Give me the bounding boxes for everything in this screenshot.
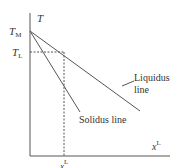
tl-label: TL	[12, 47, 22, 60]
liquidus-leader	[122, 81, 134, 86]
solidus-label: Solidus line	[79, 115, 127, 125]
liquidus-line	[30, 31, 140, 111]
liquidus-label: Liquidus line	[134, 72, 170, 96]
y-axis-label: T	[37, 13, 43, 24]
phase-diagram: T TM TL Liquidus line Solidus line xL xL	[0, 0, 181, 168]
x-axis-label: xL	[152, 140, 161, 152]
tm-label: TM	[9, 26, 21, 39]
xl-tick-label: xL	[60, 159, 68, 168]
solidus-line	[30, 31, 80, 112]
